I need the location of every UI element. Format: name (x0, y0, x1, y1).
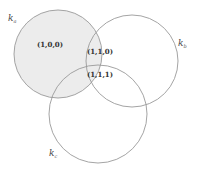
venn-diagram: (1,0,0) (1,1,0) (1,1,1) ka kb kc (0, 0, 206, 173)
set-label-k-c: kc (49, 148, 57, 159)
region-label-111: (1,1,1) (87, 70, 113, 79)
set-label-k-a: ka (8, 13, 16, 24)
region-label-100: (1,0,0) (37, 40, 63, 49)
region-label-110: (1,1,0) (87, 47, 113, 56)
set-label-k-b: kb (178, 38, 187, 49)
